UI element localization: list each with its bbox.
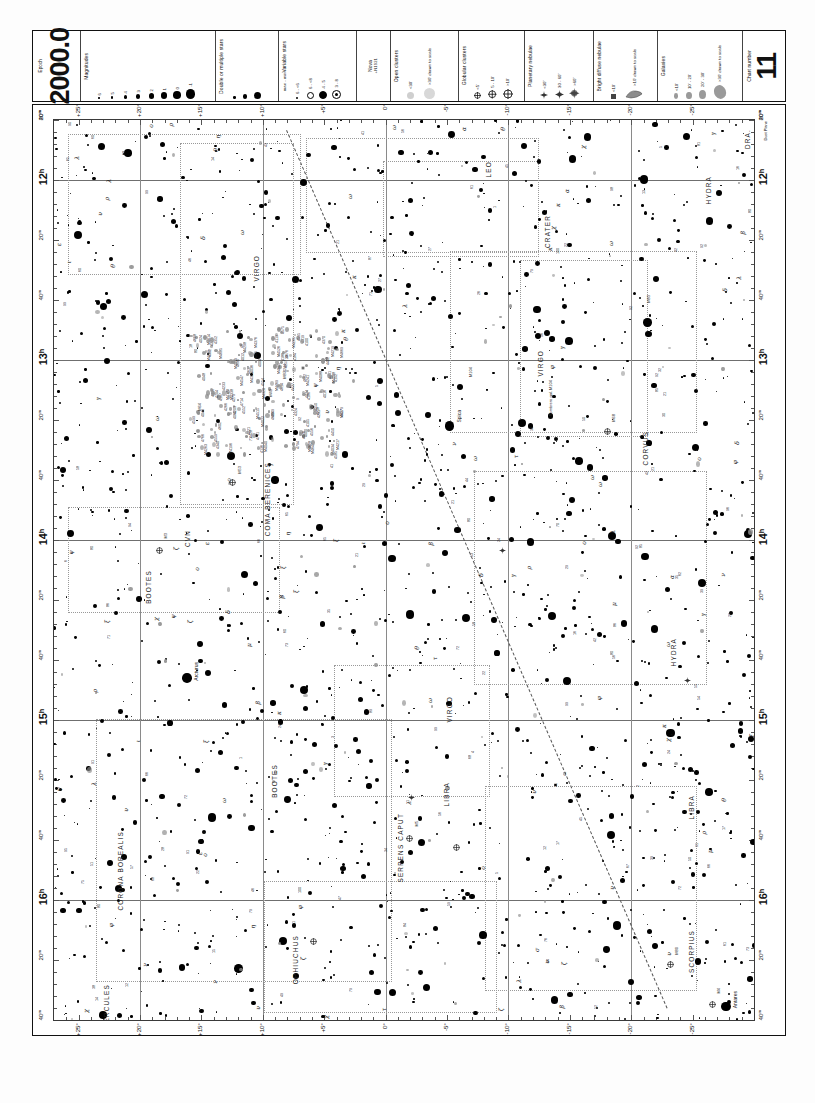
globular-cluster-marker[interactable] [453, 837, 460, 844]
galaxy-marker[interactable] [196, 343, 199, 348]
galaxy-marker[interactable] [257, 389, 261, 394]
bright-star[interactable] [271, 476, 278, 483]
galaxy-marker[interactable] [248, 351, 252, 355]
bright-star[interactable] [692, 444, 699, 451]
galaxy-marker[interactable] [229, 407, 232, 410]
galaxy-marker[interactable] [315, 372, 318, 375]
bright-star[interactable] [374, 286, 381, 293]
galaxy-marker[interactable] [176, 889, 179, 892]
galaxy-marker[interactable] [383, 288, 386, 291]
galaxy-marker[interactable] [325, 451, 330, 457]
galaxy-marker[interactable] [580, 574, 584, 577]
galaxy-marker[interactable] [129, 265, 134, 270]
bright-star[interactable] [423, 984, 430, 991]
galaxy-marker[interactable] [61, 673, 64, 676]
bright-star[interactable] [584, 133, 592, 141]
galaxy-marker[interactable] [287, 382, 291, 387]
bright-star[interactable] [634, 681, 640, 687]
bright-star[interactable] [67, 530, 74, 537]
bright-star[interactable] [141, 291, 149, 299]
bright-star[interactable] [491, 617, 497, 623]
galaxy-marker[interactable] [743, 299, 745, 301]
galaxy-marker[interactable] [662, 366, 664, 368]
galaxy-marker[interactable] [196, 429, 200, 433]
bright-star[interactable] [248, 825, 254, 831]
galaxy-marker[interactable] [499, 316, 502, 319]
galaxy-marker[interactable] [328, 429, 330, 432]
bright-star[interactable] [462, 614, 471, 623]
galaxy-marker[interactable] [461, 165, 463, 168]
galaxy-marker[interactable] [507, 775, 509, 777]
named-star-spica[interactable] [445, 421, 455, 431]
planetary-nebula-marker[interactable] [408, 787, 415, 794]
galaxy-marker[interactable] [320, 389, 325, 393]
galaxy-marker[interactable] [71, 1018, 73, 1021]
galaxy-marker[interactable] [128, 587, 132, 591]
galaxy-marker[interactable] [302, 393, 306, 396]
galaxy-marker[interactable] [374, 621, 378, 626]
galaxy-marker[interactable] [609, 255, 611, 257]
galaxy-marker[interactable] [204, 662, 207, 665]
galaxy-marker[interactable] [271, 437, 274, 442]
bright-star[interactable] [457, 384, 463, 390]
galaxy-marker[interactable] [272, 344, 276, 348]
galaxy-marker[interactable] [338, 627, 343, 631]
bright-star[interactable] [104, 358, 110, 364]
galaxy-marker[interactable] [593, 171, 596, 175]
galaxy-marker[interactable] [255, 360, 257, 362]
bright-star[interactable] [146, 427, 153, 434]
galaxy-marker[interactable] [280, 413, 283, 417]
bright-star[interactable] [107, 860, 113, 866]
galaxy-marker[interactable] [164, 659, 167, 662]
galaxy-marker[interactable] [492, 324, 495, 327]
galaxy-marker[interactable] [721, 367, 725, 372]
galaxy-marker[interactable] [484, 339, 488, 344]
galaxy-marker[interactable] [748, 529, 753, 535]
galaxy-marker[interactable] [288, 338, 291, 342]
bright-star[interactable] [448, 131, 455, 138]
galaxy-marker[interactable] [544, 900, 547, 903]
galaxy-marker[interactable] [243, 367, 246, 370]
galaxy-marker[interactable] [326, 418, 330, 422]
galaxy-marker[interactable] [428, 839, 432, 842]
bright-star[interactable] [316, 524, 323, 531]
galaxy-marker[interactable] [238, 354, 240, 356]
bright-star[interactable] [205, 670, 212, 677]
sky-map[interactable]: 43244714M40344105425043194662M4338M45264… [53, 119, 755, 1021]
bright-star[interactable] [479, 931, 487, 939]
bright-star[interactable] [286, 315, 292, 321]
bright-star[interactable] [454, 527, 461, 534]
galaxy-marker[interactable] [278, 354, 280, 356]
galaxy-marker[interactable] [256, 379, 260, 384]
bright-star[interactable] [198, 839, 204, 845]
galaxy-marker[interactable] [426, 563, 431, 567]
galaxy-marker[interactable] [197, 411, 201, 415]
bright-star[interactable] [544, 330, 550, 336]
named-star-antares[interactable] [721, 1002, 731, 1012]
galaxy-marker[interactable] [245, 435, 248, 438]
galaxy-marker[interactable] [700, 629, 704, 634]
galaxy-marker[interactable] [713, 149, 716, 152]
galaxy-marker[interactable] [217, 351, 220, 355]
bright-star[interactable] [551, 996, 559, 1004]
bright-star[interactable] [621, 620, 627, 626]
galaxy-marker[interactable] [741, 514, 744, 517]
galaxy-marker[interactable] [303, 694, 307, 697]
galaxy-marker[interactable] [674, 762, 678, 766]
bright-star[interactable] [603, 946, 610, 953]
galaxy-marker[interactable] [300, 339, 304, 344]
galaxy-marker[interactable] [646, 810, 649, 813]
globular-cluster-marker[interactable] [406, 828, 413, 835]
galaxy-marker[interactable] [501, 767, 503, 769]
bright-star[interactable] [683, 133, 690, 140]
galaxy-marker[interactable] [582, 429, 585, 432]
bright-star[interactable] [643, 318, 651, 326]
galaxy-marker[interactable] [268, 199, 271, 202]
bright-star[interactable] [241, 571, 248, 578]
galaxy-marker[interactable] [704, 244, 707, 248]
galaxy-marker[interactable] [328, 445, 331, 448]
galaxy-marker[interactable] [346, 294, 349, 296]
bright-star[interactable] [575, 457, 583, 465]
galaxy-marker[interactable] [696, 461, 701, 467]
bright-star[interactable] [60, 467, 67, 474]
